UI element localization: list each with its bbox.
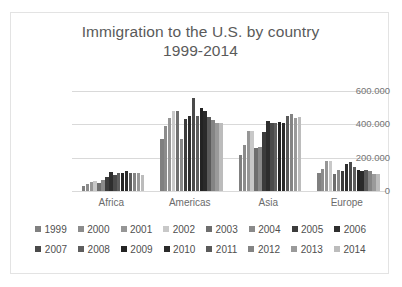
bar	[117, 173, 120, 191]
bar	[90, 182, 93, 191]
bar	[250, 131, 253, 191]
legend-item-2000[interactable]: 2000	[78, 224, 110, 235]
legend-item-2004[interactable]: 2004	[249, 224, 281, 235]
bar	[207, 117, 210, 191]
legend-item-2002[interactable]: 2002	[163, 224, 195, 235]
bar	[294, 118, 297, 192]
legend-item-2001[interactable]: 2001	[121, 224, 153, 235]
legend-swatch-icon	[292, 226, 298, 232]
bar	[243, 145, 246, 191]
bar	[129, 173, 132, 191]
bar	[101, 180, 104, 191]
legend-item-2008[interactable]: 2008	[78, 244, 110, 255]
bar	[376, 174, 379, 191]
bar	[353, 167, 356, 191]
legend-swatch-icon	[206, 246, 212, 252]
legend-swatch-icon	[334, 246, 340, 252]
bar	[176, 111, 179, 191]
legend-label: 2005	[301, 224, 323, 235]
legend-label: 2014	[343, 244, 365, 255]
bar	[211, 120, 214, 192]
bar	[298, 117, 301, 191]
bar	[168, 118, 171, 191]
bar	[372, 174, 375, 192]
bar	[278, 122, 281, 191]
bar-group-asia	[239, 91, 302, 191]
legend-swatch-icon	[334, 226, 340, 232]
legend-swatch-icon	[291, 246, 297, 252]
legend-label: 2000	[87, 224, 109, 235]
bar	[180, 139, 183, 191]
legend-swatch-icon	[248, 246, 254, 252]
legend-item-2009[interactable]: 2009	[121, 244, 153, 255]
legend-swatch-icon	[121, 226, 127, 232]
bar	[215, 123, 218, 192]
bar	[270, 123, 273, 192]
bar	[97, 183, 100, 191]
category-label-americas: Americas	[151, 197, 230, 209]
legend-swatch-icon	[163, 226, 169, 232]
legend-item-2003[interactable]: 2003	[206, 224, 238, 235]
bar	[258, 147, 261, 191]
legend-item-2013[interactable]: 2013	[291, 244, 323, 255]
bar	[219, 123, 222, 191]
bar	[160, 139, 163, 191]
bar	[82, 186, 85, 192]
bar-group-africa	[82, 91, 145, 191]
bar	[172, 111, 175, 191]
bar	[333, 174, 336, 191]
bar	[133, 173, 136, 191]
legend-swatch-icon	[78, 226, 84, 232]
bar	[192, 98, 195, 191]
bar	[86, 184, 89, 192]
bar	[341, 171, 344, 191]
bar	[254, 148, 257, 191]
legend-swatch-icon	[249, 226, 255, 232]
bar	[349, 162, 352, 191]
bar	[337, 170, 340, 191]
legend-label: 1999	[45, 224, 67, 235]
bar	[290, 114, 293, 191]
bar	[164, 126, 167, 192]
category-label-asia: Asia	[229, 197, 308, 209]
bar	[282, 123, 285, 192]
legend-label: 2009	[130, 244, 152, 255]
bar	[141, 175, 144, 191]
bar	[286, 116, 289, 191]
legend-item-2010[interactable]: 2010	[164, 244, 196, 255]
bar	[360, 171, 363, 191]
bar	[364, 170, 367, 191]
legend-item-2012[interactable]: 2012	[248, 244, 280, 255]
legend-label: 2010	[173, 244, 195, 255]
legend-item-2014[interactable]: 2014	[334, 244, 366, 255]
category-label-europe: Europe	[308, 197, 387, 209]
legend-label: 2013	[301, 244, 323, 255]
bar	[317, 173, 320, 191]
legend-label: 2003	[216, 224, 238, 235]
legend-item-2011[interactable]: 2011	[206, 244, 237, 255]
bar	[125, 171, 128, 191]
legend-label: 2001	[130, 224, 152, 235]
bar-group-americas	[160, 91, 223, 191]
bar	[93, 181, 96, 191]
bar	[188, 116, 191, 191]
bar	[357, 170, 360, 191]
legend-row-2: 20072008200920102011201220132014	[11, 239, 390, 259]
legend-item-2007[interactable]: 2007	[35, 244, 67, 255]
legend-item-1999[interactable]: 1999	[35, 224, 67, 235]
bar	[203, 111, 206, 192]
legend-label: 2002	[173, 224, 195, 235]
legend-label: 2012	[258, 244, 280, 255]
bar	[345, 164, 348, 192]
legend-label: 2008	[88, 244, 110, 255]
legend-item-2006[interactable]: 2006	[334, 224, 366, 235]
legend-swatch-icon	[206, 226, 212, 232]
bar	[274, 123, 277, 191]
bar	[137, 173, 140, 191]
bar	[113, 175, 116, 191]
bar	[105, 177, 108, 191]
legend-label: 2006	[344, 224, 366, 235]
legend-item-2005[interactable]: 2005	[292, 224, 324, 235]
bar	[109, 172, 112, 192]
bar	[266, 121, 269, 191]
